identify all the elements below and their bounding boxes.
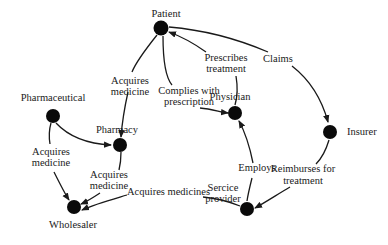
node-physician: Physician	[210, 91, 252, 120]
edge-serviceprovider-physician: Employs	[238, 121, 275, 201]
node-label: Physician	[210, 91, 252, 102]
node-pharmacy: Pharmacy	[96, 124, 139, 152]
node-dot	[113, 138, 127, 152]
edge-label: treatment	[206, 63, 246, 74]
edge-label: Acquires	[90, 169, 128, 180]
node-label: Patient	[151, 8, 180, 19]
edge-pharmaceutical-wholesaler: Acquires medicine	[32, 123, 71, 200]
node-label: Insurer	[347, 126, 377, 137]
node-insurer: Insurer	[323, 125, 377, 139]
node-label: Pharmaceutical	[21, 92, 86, 103]
node-dot	[46, 109, 60, 123]
node-patient: Patient	[151, 8, 180, 36]
edge-label: treatment	[283, 175, 323, 186]
node-wholesaler: Wholesaler	[49, 200, 97, 230]
edge-label: Acquires medicines	[127, 186, 210, 197]
node-label: Wholesaler	[49, 219, 97, 230]
edge-label: Prescribes	[204, 52, 247, 63]
edge-label: Claims	[263, 53, 293, 64]
edge-label: prescription	[164, 96, 215, 107]
node-dot	[154, 21, 169, 36]
node-label-line1: Sercice	[208, 182, 239, 193]
edge-label: medicine	[32, 157, 71, 168]
edge-label: medicine	[90, 180, 129, 191]
node-dot	[228, 106, 242, 120]
stakeholder-network-diagram: Acquires medicine Complies with prescrip…	[0, 0, 388, 245]
node-dot	[323, 125, 337, 139]
node-pharmaceutical: Pharmaceutical	[21, 92, 86, 123]
node-label: Pharmacy	[96, 124, 139, 135]
edge-label: Acquires	[32, 146, 70, 157]
edge-insurer-serviceprovider: Reimburses for treatment	[255, 140, 336, 208]
edge-patient-pharmacy: Acquires medicine	[111, 35, 157, 137]
node-label-line2: provider	[205, 193, 241, 204]
edge-label: Reimburses for	[271, 163, 336, 174]
node-dot	[240, 202, 254, 216]
edge-patient-insurer: Claims	[169, 27, 328, 122]
node-dot	[67, 200, 81, 214]
edge-label: medicine	[111, 86, 150, 97]
edge-label: Acquires	[111, 75, 149, 86]
